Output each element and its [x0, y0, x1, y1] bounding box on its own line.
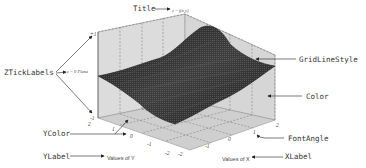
- x-tick-m1: -1: [205, 143, 210, 149]
- y-tick-m2: -2: [165, 150, 170, 156]
- y-tick-1: 1: [112, 126, 115, 132]
- y-axis-label: Values of Y: [107, 155, 135, 161]
- plot-title: z = f(x,y): [171, 8, 189, 14]
- annotation-xlabel: XLabel: [285, 152, 312, 161]
- y-tick-2: 2: [88, 121, 91, 127]
- y-tick-0: 0: [130, 133, 133, 139]
- x-tick-1: 1: [253, 129, 256, 135]
- annotation-gridlinestyle: GridLineStyle: [299, 55, 358, 64]
- annotation-fontangle: FontAngle: [288, 134, 329, 143]
- x-tick-m2: -2: [178, 151, 183, 157]
- annotation-ycolor: YColor: [43, 129, 71, 138]
- y-tick-m1: -1: [147, 141, 152, 147]
- z-tick-top: +1: [90, 31, 97, 37]
- diagram-canvas: +1 -1 2 1 0 -1 -2 -2 -1 0 1 2 z = f(x,y)…: [0, 0, 366, 168]
- x-tick-2: 2: [276, 122, 279, 128]
- annotation-ylabel: YLabel: [43, 152, 70, 161]
- annotation-title: Title: [133, 4, 156, 13]
- x-tick-0: 0: [228, 136, 231, 142]
- annotation-zticklabels: ZTickLabels: [4, 68, 54, 77]
- annotation-color: Color: [306, 92, 329, 101]
- x-axis-label: Values of X: [222, 156, 250, 162]
- z-plane-label: z = 0 Plane: [66, 69, 88, 74]
